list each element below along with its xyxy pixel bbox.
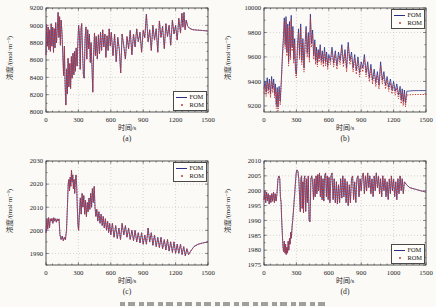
legend: FOM ROM bbox=[391, 244, 425, 264]
x-axis-label: 时间/s bbox=[118, 275, 137, 285]
svg-text:300: 300 bbox=[73, 116, 84, 123]
svg-text:2005: 2005 bbox=[248, 172, 262, 179]
cropped-caption-text bbox=[120, 302, 325, 306]
svg-text:1980: 1980 bbox=[248, 246, 262, 253]
svg-text:0: 0 bbox=[44, 116, 48, 123]
svg-text:300: 300 bbox=[73, 269, 84, 276]
chart-canvas-d: 0300600900100015001975198019851990199520… bbox=[218, 153, 436, 301]
subplot-caption: (b) bbox=[341, 134, 350, 143]
svg-text:600: 600 bbox=[324, 116, 335, 123]
dot-marker-swatch-icon bbox=[394, 257, 405, 260]
svg-text:1975: 1975 bbox=[248, 261, 262, 268]
svg-text:1000: 1000 bbox=[387, 269, 401, 276]
subplot-d: 0300600900100015001975198019851990199520… bbox=[218, 153, 436, 301]
legend-label: ROM bbox=[407, 254, 422, 262]
legend-item-rom: ROM bbox=[394, 19, 422, 27]
svg-text:1200: 1200 bbox=[387, 116, 401, 123]
legend-item-fom: FOM bbox=[394, 246, 422, 254]
svg-text:0: 0 bbox=[262, 269, 266, 276]
svg-text:2030: 2030 bbox=[30, 157, 44, 164]
x-axis-label: 时间/s bbox=[336, 275, 355, 285]
subplot-a: 0300600900120015008000820084008600880090… bbox=[0, 0, 218, 148]
svg-text:900: 900 bbox=[356, 116, 367, 123]
svg-text:1990: 1990 bbox=[30, 250, 44, 257]
legend-item-fom: FOM bbox=[176, 164, 204, 172]
svg-text:2000: 2000 bbox=[248, 187, 262, 194]
svg-text:600: 600 bbox=[324, 269, 335, 276]
solid-line-swatch-icon bbox=[394, 250, 405, 251]
dot-marker-swatch-icon bbox=[176, 175, 187, 178]
svg-text:2000: 2000 bbox=[30, 227, 44, 234]
subplot-c: 03006009001200150019902000201020202030 浓… bbox=[0, 153, 218, 301]
solid-line-swatch-icon bbox=[176, 97, 187, 98]
svg-text:2010: 2010 bbox=[30, 204, 44, 211]
svg-text:9200: 9200 bbox=[30, 4, 44, 11]
svg-text:10000: 10000 bbox=[245, 4, 262, 11]
legend-label: ROM bbox=[189, 101, 204, 109]
svg-text:8400: 8400 bbox=[30, 74, 44, 81]
svg-text:1500: 1500 bbox=[419, 116, 433, 123]
legend-label: FOM bbox=[407, 11, 421, 19]
svg-text:1500: 1500 bbox=[201, 269, 215, 276]
svg-text:0: 0 bbox=[262, 116, 266, 123]
svg-text:1995: 1995 bbox=[248, 202, 262, 209]
svg-text:2020: 2020 bbox=[30, 180, 44, 187]
chart-canvas-a: 0300600900120015008000820084008600880090… bbox=[0, 0, 218, 148]
svg-text:900: 900 bbox=[138, 269, 149, 276]
solid-line-swatch-icon bbox=[394, 15, 405, 16]
legend-label: FOM bbox=[407, 246, 421, 254]
legend: FOM ROM bbox=[173, 91, 207, 111]
x-axis-label: 时间/s bbox=[336, 122, 355, 132]
svg-text:1990: 1990 bbox=[248, 217, 262, 224]
svg-text:9400: 9400 bbox=[248, 78, 262, 85]
subplot-b: 030060090012001500920094009600980010000 … bbox=[218, 0, 436, 148]
legend-item-fom: FOM bbox=[176, 93, 204, 101]
svg-text:8800: 8800 bbox=[30, 39, 44, 46]
y-axis-label: 浓度/(mol·m⁻³) bbox=[4, 189, 14, 233]
svg-text:8600: 8600 bbox=[30, 56, 44, 63]
dot-marker-swatch-icon bbox=[394, 22, 405, 25]
svg-text:9200: 9200 bbox=[248, 102, 262, 109]
svg-text:300: 300 bbox=[291, 269, 302, 276]
svg-text:8200: 8200 bbox=[30, 91, 44, 98]
svg-text:0: 0 bbox=[44, 269, 48, 276]
svg-text:1500: 1500 bbox=[419, 269, 433, 276]
legend-label: ROM bbox=[189, 172, 204, 180]
x-axis-label: 时间/s bbox=[118, 122, 137, 132]
subplot-caption: (d) bbox=[341, 287, 350, 296]
legend-label: ROM bbox=[407, 19, 422, 27]
solid-line-swatch-icon bbox=[176, 168, 187, 169]
four-panel-concentration-figure: 0300600900120015008000820084008600880090… bbox=[0, 0, 436, 307]
legend-label: FOM bbox=[189, 164, 203, 172]
legend: FOM ROM bbox=[173, 162, 207, 182]
legend-item-fom: FOM bbox=[394, 11, 422, 19]
y-axis-label: 浓度/(mol·m⁻³) bbox=[222, 189, 232, 233]
legend-item-rom: ROM bbox=[394, 254, 422, 262]
svg-text:300: 300 bbox=[291, 116, 302, 123]
svg-text:9600: 9600 bbox=[248, 53, 262, 60]
svg-text:1200: 1200 bbox=[169, 269, 183, 276]
dot-marker-swatch-icon bbox=[176, 104, 187, 107]
svg-text:600: 600 bbox=[106, 116, 117, 123]
svg-text:900: 900 bbox=[356, 269, 367, 276]
subplot-caption: (c) bbox=[123, 287, 131, 296]
legend-item-rom: ROM bbox=[176, 172, 204, 180]
svg-text:9800: 9800 bbox=[248, 29, 262, 36]
svg-text:2010: 2010 bbox=[248, 157, 262, 164]
svg-text:600: 600 bbox=[106, 269, 117, 276]
svg-text:1500: 1500 bbox=[201, 116, 215, 123]
y-axis-label: 浓度/(mol·m⁻³) bbox=[222, 36, 232, 80]
svg-text:9000: 9000 bbox=[30, 22, 44, 29]
y-axis-label: 浓度/(mol·m⁻³) bbox=[4, 36, 14, 80]
svg-text:1200: 1200 bbox=[169, 116, 183, 123]
legend-label: FOM bbox=[189, 93, 203, 101]
svg-text:900: 900 bbox=[138, 116, 149, 123]
legend: FOM ROM bbox=[391, 9, 425, 29]
subplot-caption: (a) bbox=[123, 134, 131, 143]
svg-text:1985: 1985 bbox=[248, 232, 262, 239]
svg-text:8000: 8000 bbox=[30, 108, 44, 115]
legend-item-rom: ROM bbox=[176, 101, 204, 109]
